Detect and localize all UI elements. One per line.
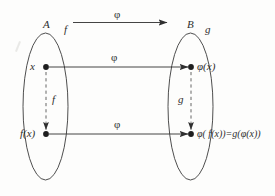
g-top-label: g [205,24,211,35]
point-phi-x [188,64,194,70]
point-fx-label: f(x) [20,128,35,139]
point-x [43,64,49,70]
g-vertical-label: g [178,94,184,105]
point-fx [43,131,49,137]
set-b-ellipse [168,33,213,180]
top-phi-label: φ [114,9,120,20]
diagram-canvas [0,0,275,196]
lower-phi-label: φ [114,119,120,130]
commutative-diagram-figure: A B f g φ φ φ f g x f(x) φ(x) φ( f(x))=g… [0,0,275,196]
set-a-ellipse [23,33,68,180]
point-phi-fx [188,131,194,137]
set-a-label: A [43,19,50,30]
upper-phi-label: φ [111,52,117,63]
point-phi-fx-label: φ( f(x))=g(φ(x)) [197,129,261,139]
f-vertical-label: f [52,94,55,105]
point-x-label: x [30,61,35,72]
set-b-label: B [187,19,194,30]
point-phi-x-label: φ(x) [197,61,215,72]
f-top-label: f [64,24,67,35]
